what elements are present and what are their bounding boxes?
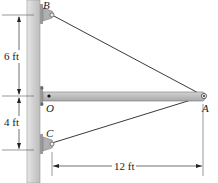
- arrow-down-O-top: [17, 89, 21, 95]
- arrow-up-B: [17, 16, 21, 22]
- diagram-svg: 6 ft 4 ft B O A C 12 ft: [0, 0, 218, 183]
- diagram-canvas: 6 ft 4 ft B O A C 12 ft: [0, 0, 218, 183]
- dim-label-6ft: 6 ft: [4, 50, 19, 62]
- wall: [27, 0, 40, 183]
- boom-OA: [43, 92, 207, 101]
- cable-CA: [52, 96, 204, 143]
- label-B: B: [43, 0, 50, 11]
- dim-label-4ft: 4 ft: [4, 116, 19, 128]
- cable-BA: [52, 15, 204, 96]
- label-O: O: [46, 102, 54, 114]
- pin-C: [50, 142, 54, 146]
- label-C: C: [46, 127, 54, 139]
- arrow-left-12ft: [53, 164, 59, 168]
- pin-O: [47, 94, 50, 97]
- arrow-down-C: [17, 143, 21, 149]
- label-A: A: [201, 102, 209, 114]
- pin-B: [50, 13, 54, 17]
- arrow-up-O-bottom: [17, 97, 21, 103]
- arrow-right-12ft: [196, 164, 202, 168]
- dim-label-12ft: 12 ft: [114, 160, 134, 172]
